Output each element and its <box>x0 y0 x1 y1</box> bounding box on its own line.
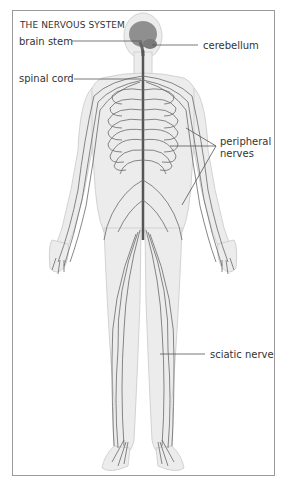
label-peripheral-line1: peripheral <box>220 136 271 147</box>
label-peripheral-line2: nerves <box>220 148 254 159</box>
label-brain-stem: brain stem <box>19 36 73 47</box>
label-spinal-cord: spinal cord <box>19 73 74 84</box>
label-sciatic-nerve: sciatic nerve <box>210 349 274 360</box>
diagram-title: THE NERVOUS SYSTEM <box>20 20 125 30</box>
label-cerebellum: cerebellum <box>203 40 259 51</box>
